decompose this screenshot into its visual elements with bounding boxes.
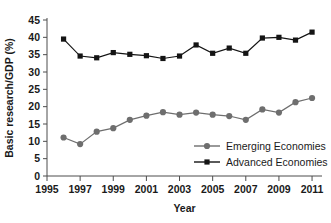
legend-label: Advanced Economies <box>226 156 328 168</box>
legend-label: Emerging Economies <box>226 140 326 152</box>
data-point-marker <box>260 35 265 40</box>
data-point-marker <box>177 53 182 58</box>
data-point-marker <box>210 112 216 118</box>
data-point-marker <box>60 134 66 140</box>
data-point-marker <box>78 53 83 58</box>
x-tick-label: 2011 <box>301 183 324 195</box>
data-point-marker <box>176 112 182 118</box>
y-tick-label: 0 <box>34 170 40 182</box>
data-point-marker <box>243 117 249 123</box>
x-tick-label: 1997 <box>68 183 92 195</box>
data-point-marker <box>210 51 215 56</box>
data-point-marker <box>77 141 83 147</box>
x-tick-label: 2003 <box>168 183 192 195</box>
series-line <box>64 98 312 144</box>
x-tick-label: 2007 <box>234 183 258 195</box>
legend-item-emerging-economies[interactable]: Emerging Economies <box>194 140 326 152</box>
data-point-marker <box>94 55 99 60</box>
legend-item-advanced-economies[interactable]: Advanced Economies <box>194 156 328 168</box>
line-chart: 0510152025303540451995199719992001200320… <box>0 0 331 223</box>
data-point-marker <box>94 129 100 135</box>
y-tick-label: 35 <box>28 48 40 60</box>
data-point-marker <box>227 45 232 50</box>
data-point-marker <box>144 53 149 58</box>
data-point-marker <box>309 95 315 101</box>
data-point-marker <box>226 113 232 119</box>
data-point-marker <box>127 52 132 57</box>
y-tick-label: 15 <box>28 118 40 130</box>
data-point-marker <box>160 109 166 115</box>
data-point-marker <box>143 113 149 119</box>
x-tick-label: 2005 <box>201 183 225 195</box>
series-advanced-economies <box>61 30 315 62</box>
series-line <box>64 32 312 58</box>
x-axis-title: Year <box>173 202 195 214</box>
y-tick-label: 5 <box>34 152 40 164</box>
y-tick-label: 30 <box>28 66 40 78</box>
legend-marker-swatch <box>204 143 210 149</box>
data-point-marker <box>309 30 314 35</box>
data-point-marker <box>293 38 298 43</box>
y-tick-label: 25 <box>28 83 40 95</box>
chart-canvas: 0510152025303540451995199719992001200320… <box>0 0 331 223</box>
data-point-marker <box>243 51 248 56</box>
y-tick-label: 40 <box>28 31 40 43</box>
y-axis-title: Basic research/GDP (%) <box>3 38 15 157</box>
y-tick-label: 10 <box>28 135 40 147</box>
data-point-marker <box>160 56 165 61</box>
data-point-marker <box>276 109 282 115</box>
data-point-marker <box>193 109 199 115</box>
y-tick-label: 20 <box>28 100 40 112</box>
data-point-marker <box>194 42 199 47</box>
data-point-marker <box>61 36 66 41</box>
x-tick-label: 1999 <box>102 183 126 195</box>
y-tick-label: 45 <box>28 14 40 26</box>
data-point-marker <box>110 125 116 131</box>
x-tick-label: 1995 <box>35 183 59 195</box>
data-point-marker <box>127 117 133 123</box>
data-point-marker <box>292 99 298 105</box>
data-point-marker <box>276 35 281 40</box>
data-point-marker <box>111 50 116 55</box>
x-tick-label: 2001 <box>135 183 159 195</box>
x-tick-label: 2009 <box>267 183 291 195</box>
data-point-marker <box>259 106 265 112</box>
legend-marker-swatch <box>204 159 209 164</box>
